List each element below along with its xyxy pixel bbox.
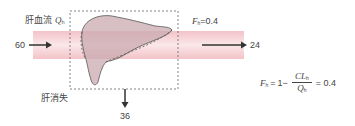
extraction-label: Fh=0.4 bbox=[192, 16, 218, 26]
elimination-arrow-icon bbox=[122, 102, 129, 108]
extraction-formula: Fh = 1− CLh Qh = 0.4 bbox=[260, 72, 336, 93]
formula-result: = 0.4 bbox=[316, 78, 336, 88]
inflow-value: 60 bbox=[15, 40, 25, 50]
formula-equals: = bbox=[270, 78, 275, 88]
formula-one-minus: 1− bbox=[278, 78, 288, 88]
outflow-value: 24 bbox=[250, 40, 260, 50]
extraction-value: =0.4 bbox=[200, 16, 218, 26]
eliminated-value: 36 bbox=[120, 111, 130, 121]
formula-denominator-subscript: h bbox=[304, 87, 307, 93]
hepatic-elimination-label: 肝消失 bbox=[41, 91, 68, 104]
hepatic-blood-flow-text: 肝血流 bbox=[25, 15, 52, 25]
formula-numerator-subscript: h bbox=[306, 75, 309, 81]
flow-subscript: h bbox=[61, 19, 64, 25]
hepatic-blood-flow-label: 肝血流 Qh bbox=[25, 13, 65, 26]
formula-lhs-subscript: h bbox=[266, 82, 269, 88]
formula-numerator: CL bbox=[295, 71, 306, 81]
formula-fraction: CLh Qh bbox=[292, 72, 312, 93]
